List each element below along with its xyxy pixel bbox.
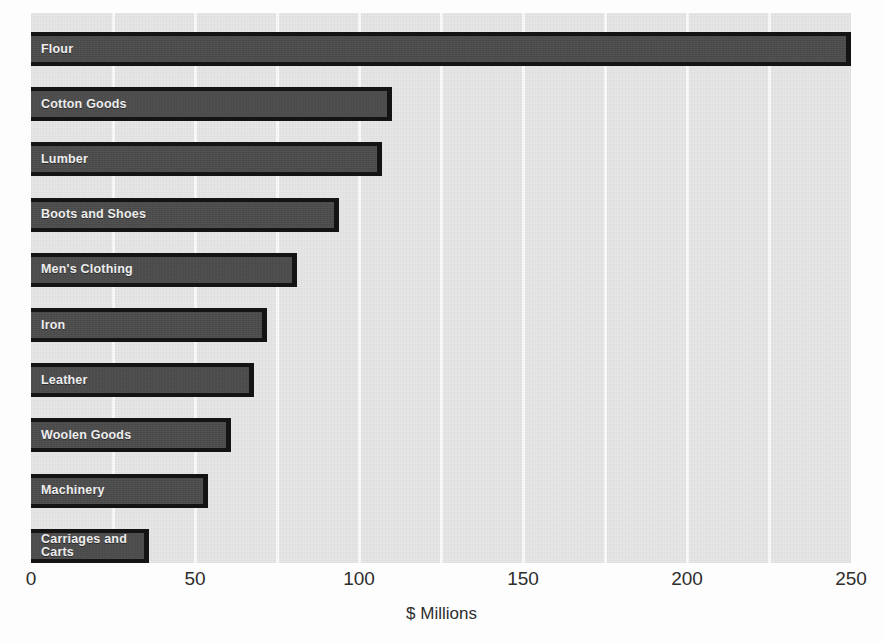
x-tick-label: 100 [343, 568, 375, 590]
bar-category-label: Lumber [31, 153, 88, 166]
bar[interactable]: Leather [31, 363, 254, 397]
gridline [604, 13, 607, 563]
x-axis-title: $ Millions [0, 604, 883, 624]
bar-category-label: Iron [31, 319, 65, 332]
bar[interactable]: Iron [31, 308, 267, 342]
bar-texture [31, 36, 846, 62]
bar[interactable]: Lumber [31, 142, 382, 176]
plot-area: FlourCotton GoodsLumberBoots and ShoesMe… [31, 13, 851, 563]
bar-category-label: Woolen Goods [31, 429, 131, 442]
x-tick-label: 250 [835, 568, 867, 590]
bar-category-label: Leather [31, 374, 88, 387]
bar[interactable]: Woolen Goods [31, 418, 231, 452]
bar-texture [31, 312, 262, 338]
x-tick-label: 50 [184, 568, 205, 590]
bar[interactable]: Flour [31, 32, 851, 66]
bar[interactable]: Machinery [31, 474, 208, 508]
bar[interactable]: Cotton Goods [31, 87, 392, 121]
bar-category-label: Carriages and Carts [31, 533, 127, 559]
bar[interactable]: Men's Clothing [31, 253, 297, 287]
bar-category-label: Cotton Goods [31, 98, 127, 111]
gridline [686, 13, 689, 563]
gridline [522, 13, 525, 563]
bar-category-label: Machinery [31, 484, 105, 497]
gridline [768, 13, 771, 563]
bar[interactable]: Boots and Shoes [31, 198, 339, 232]
gridline [440, 13, 443, 563]
x-tick-label: 0 [26, 568, 37, 590]
bar-category-label: Men's Clothing [31, 263, 133, 276]
x-axis-tick-labels: 050100150200250 [0, 568, 883, 594]
x-tick-label: 200 [671, 568, 703, 590]
bar[interactable]: Carriages and Carts [31, 529, 149, 563]
x-tick-label: 150 [507, 568, 539, 590]
bar-chart-figure: FlourCotton GoodsLumberBoots and ShoesMe… [0, 0, 883, 642]
bar-category-label: Flour [31, 43, 73, 56]
bar-category-label: Boots and Shoes [31, 208, 146, 221]
